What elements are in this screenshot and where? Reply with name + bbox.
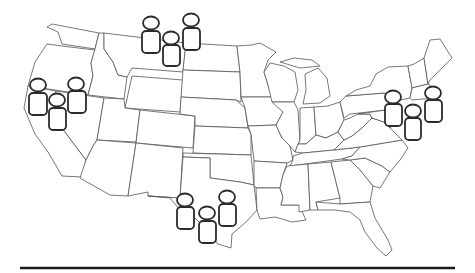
person-body [385,104,402,126]
state-wyoming [125,76,183,112]
person-icon [385,91,402,127]
person-icon [405,105,421,141]
person-head [183,14,199,27]
person-head [163,32,179,45]
person-body [219,204,236,226]
person-head [385,91,401,104]
state-borders [24,24,452,256]
person-head [199,207,215,220]
person-head [143,17,159,30]
state-new-mexico [128,143,183,198]
person-icon [68,78,86,114]
person-icon [219,191,236,227]
person-body [183,28,200,50]
person-icon [199,207,216,244]
person-head [177,194,193,207]
person-head [405,105,421,118]
person-icon [177,194,194,230]
person-body [199,221,216,243]
state-maine [424,39,452,84]
state-kansas [193,126,251,155]
person-body [142,31,160,53]
person-body [49,108,66,130]
state-florida [316,202,392,256]
person-icon [142,17,160,54]
person-head [30,79,46,92]
person-body [68,91,86,113]
person-icon [49,94,66,131]
person-body [177,207,194,229]
person-head [68,78,84,91]
person-head [425,87,441,100]
person-head [49,94,65,107]
person-body [405,118,421,140]
person-icon [29,79,47,116]
person-icon [183,14,200,51]
person-icon [425,87,442,123]
us-map [0,0,475,273]
state-colorado [136,110,195,148]
person-head [219,191,235,204]
person-icon [163,32,180,67]
person-body [163,45,180,66]
state-mississippi [280,164,310,212]
person-body [425,100,442,122]
person-body [29,93,47,115]
